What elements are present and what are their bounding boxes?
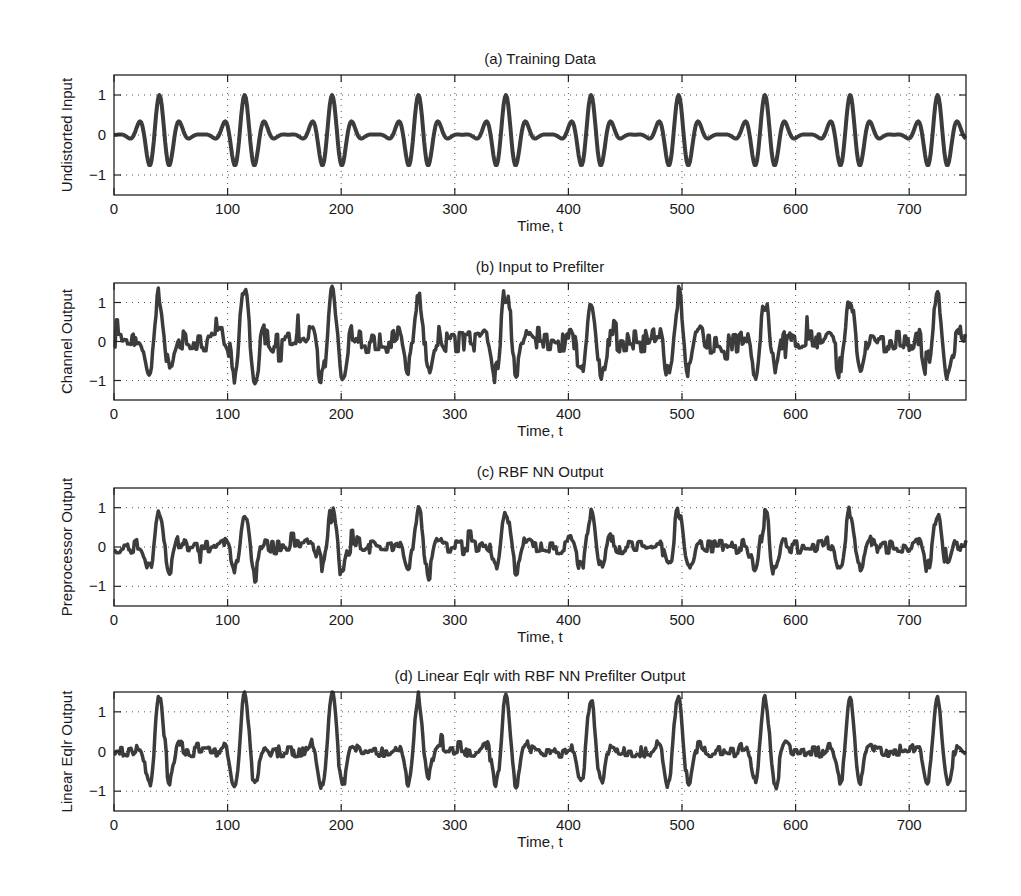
x-tick-label: 0: [110, 611, 118, 628]
subplot-title: (a) Training Data: [484, 50, 596, 67]
x-tick-label: 700: [897, 405, 922, 422]
x-tick-label: 700: [897, 611, 922, 628]
x-tick-label: 600: [783, 405, 808, 422]
x-tick-label: 0: [110, 200, 118, 217]
x-tick-label: 700: [897, 200, 922, 217]
x-axis-label: Time, t: [517, 628, 563, 645]
x-tick-label: 300: [442, 200, 467, 217]
y-axis-label: Channel Output: [58, 288, 75, 394]
x-tick-label: 100: [215, 611, 240, 628]
y-tick-label: 1: [98, 294, 106, 311]
y-tick-label: −1: [89, 372, 106, 389]
x-tick-label: 400: [556, 611, 581, 628]
x-tick-label: 400: [556, 405, 581, 422]
x-tick-label: 400: [556, 200, 581, 217]
x-tick-label: 200: [329, 611, 354, 628]
x-tick-label: 100: [215, 200, 240, 217]
x-tick-label: 0: [110, 405, 118, 422]
y-tick-label: −1: [89, 782, 106, 799]
y-tick-label: 1: [98, 499, 106, 516]
y-tick-label: 0: [98, 333, 106, 350]
x-tick-label: 400: [556, 816, 581, 833]
x-tick-label: 500: [669, 816, 694, 833]
x-tick-label: 600: [783, 816, 808, 833]
y-tick-label: −1: [89, 166, 106, 183]
subplot-title: (c) RBF NN Output: [477, 463, 605, 480]
x-tick-label: 600: [783, 611, 808, 628]
y-axis-label: Preprocessor Output: [58, 477, 75, 616]
x-axis-label: Time, t: [517, 422, 563, 439]
y-tick-label: 1: [98, 86, 106, 103]
x-tick-label: 500: [669, 611, 694, 628]
x-tick-label: 200: [329, 200, 354, 217]
x-axis-label: Time, t: [517, 833, 563, 850]
x-tick-label: 700: [897, 816, 922, 833]
figure: (a) Training Data0100200300400500600700−…: [0, 0, 1021, 896]
x-tick-label: 500: [669, 405, 694, 422]
x-tick-label: 300: [442, 405, 467, 422]
x-tick-label: 100: [215, 405, 240, 422]
y-tick-label: 1: [98, 703, 106, 720]
x-axis-label: Time, t: [517, 217, 563, 234]
x-tick-label: 500: [669, 200, 694, 217]
x-tick-label: 0: [110, 816, 118, 833]
y-axis-label: Linear Eqlr Output: [58, 690, 75, 813]
x-tick-label: 100: [215, 816, 240, 833]
y-tick-label: 0: [98, 126, 106, 143]
x-tick-label: 600: [783, 200, 808, 217]
y-tick-label: 0: [98, 538, 106, 555]
x-tick-label: 200: [329, 405, 354, 422]
y-axis-label: Undistorted Input: [58, 77, 75, 192]
x-tick-label: 300: [442, 816, 467, 833]
x-tick-label: 200: [329, 816, 354, 833]
x-tick-label: 300: [442, 611, 467, 628]
y-tick-label: −1: [89, 577, 106, 594]
subplot-title: (b) Input to Prefilter: [476, 258, 604, 275]
y-tick-label: 0: [98, 743, 106, 760]
subplot-title: (d) Linear Eqlr with RBF NN Prefilter Ou…: [395, 667, 687, 684]
